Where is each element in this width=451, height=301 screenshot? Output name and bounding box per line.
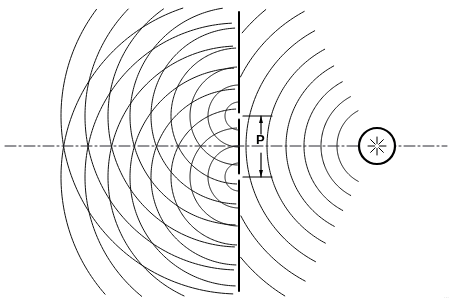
slit-separation-label: P bbox=[256, 133, 265, 146]
corner-artifact-mark: ··· bbox=[444, 295, 449, 300]
optics-diagram-canvas bbox=[0, 0, 451, 301]
figure-canvas: P ··· bbox=[0, 0, 451, 301]
